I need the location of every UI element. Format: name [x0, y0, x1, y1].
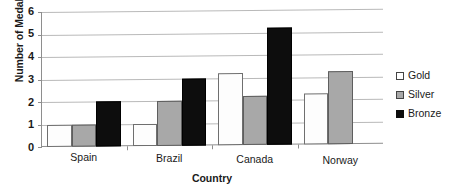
legend-item-silver: Silver — [396, 85, 452, 104]
bar-norway-gold — [304, 94, 329, 145]
y-tick-label: 1 — [20, 119, 34, 129]
y-tick-label: 2 — [20, 97, 34, 107]
bar-canada-silver — [243, 95, 268, 145]
bar-spain-bronze — [96, 101, 121, 146]
bar-canada-gold — [218, 73, 243, 145]
bar-norway-silver — [328, 71, 353, 144]
bar-groups — [41, 9, 383, 12]
y-tick-label: 3 — [20, 74, 34, 84]
bar-brazil-silver — [157, 101, 182, 146]
bar-group — [41, 11, 127, 147]
medals-bar-chart: Number of Medals Won 0123456 SpainBrazil… — [0, 0, 452, 193]
legend-item-gold: Gold — [396, 66, 452, 85]
y-tick-mark — [38, 147, 42, 148]
legend-label: Silver — [408, 89, 434, 100]
y-tick-label: 4 — [20, 51, 34, 61]
bar-group — [127, 10, 213, 146]
chart-legend: GoldSilverBronze — [396, 66, 452, 123]
bar-group — [212, 10, 298, 146]
x-tick-mark — [298, 145, 299, 149]
bar-spain-silver — [72, 124, 97, 147]
plot-area — [41, 12, 383, 147]
plot-inner — [41, 9, 383, 147]
x-tick-label-spain: Spain — [41, 151, 127, 163]
legend-item-bronze: Bronze — [396, 104, 452, 123]
x-axis-title: Country — [41, 172, 383, 184]
legend-label: Gold — [408, 70, 430, 81]
bar-spain-gold — [47, 124, 72, 147]
y-tick-label: 5 — [20, 28, 34, 38]
legend-swatch-gold-icon — [396, 72, 404, 80]
legend-label: Bronze — [408, 108, 441, 119]
y-tick-label: 0 — [20, 142, 34, 152]
x-tick-label-canada: Canada — [212, 153, 298, 165]
legend-swatch-silver-icon — [396, 91, 404, 99]
bar-brazil-gold — [133, 123, 158, 146]
y-tick-label: 6 — [20, 6, 34, 16]
x-tick-mark — [212, 145, 213, 149]
legend-swatch-bronze-icon — [396, 110, 404, 118]
bar-brazil-bronze — [182, 78, 207, 146]
x-tick-label-brazil: Brazil — [127, 152, 213, 164]
x-tick-mark — [127, 146, 128, 150]
bar-group — [298, 9, 384, 145]
x-tick-label-norway: Norway — [298, 154, 384, 166]
bar-canada-bronze — [267, 28, 292, 145]
